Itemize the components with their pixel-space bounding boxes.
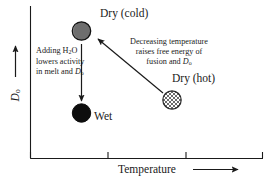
y-axis-label: Do [9, 75, 24, 115]
annotation-temp-line3a: fusion and [146, 57, 182, 66]
marker-dry-cold [72, 22, 90, 40]
annotation-decreasing-temperature: Decreasing temperature raises free energ… [122, 37, 216, 68]
annotation-temp-line1: Decreasing temperature [130, 37, 208, 46]
annotation-water-line2: lowers activity [36, 57, 84, 66]
y-axis-label-subscript: o [13, 89, 22, 93]
axis-lines [31, 6, 264, 159]
annotation-water-line1: Adding H [36, 46, 69, 55]
label-wet: Wet [94, 110, 112, 122]
annotation-temp-line3-subscript: o [189, 60, 192, 66]
label-dry-hot: Dry (hot) [172, 72, 215, 84]
marker-dry-hot [163, 91, 181, 109]
annotation-temp-line2: raises free energy of [136, 47, 202, 56]
annotation-water-line1-tail: O [71, 46, 77, 55]
figure-canvas [0, 0, 270, 187]
figure-container: Dry (cold) Dry (hot) Wet Adding H2O lowe… [0, 0, 270, 187]
marker-wet [72, 104, 90, 122]
x-axis-ticks [31, 152, 263, 159]
annotation-water-line3a: in melt and [36, 67, 75, 76]
x-axis-label: Temperature [118, 163, 176, 175]
y-axis-label-symbol: D [9, 93, 21, 101]
label-dry-cold: Dry (cold) [100, 7, 148, 19]
annotation-adding-water: Adding H2O lowers activity in melt and D… [36, 46, 84, 77]
annotation-water-line3-subscript: o [81, 70, 84, 76]
